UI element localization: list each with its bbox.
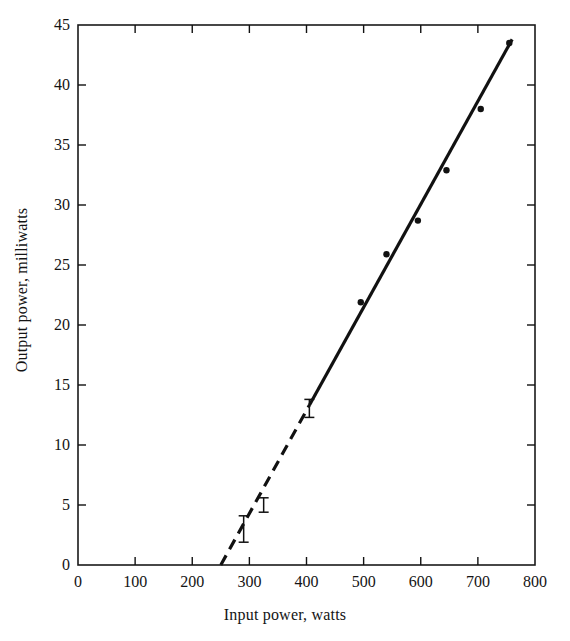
data-point: [358, 299, 364, 305]
y-tick-label: 40: [40, 76, 70, 94]
y-tick-label: 0: [40, 556, 70, 574]
data-point: [383, 251, 389, 257]
y-tick-label: 15: [40, 376, 70, 394]
plot-frame: [78, 25, 535, 565]
y-tick-label: 45: [40, 16, 70, 34]
data-point: [478, 106, 484, 112]
chart-figure: [0, 0, 570, 641]
y-tick-label: 35: [40, 136, 70, 154]
x-tick-label: 200: [180, 573, 204, 591]
x-tick-label: 800: [523, 573, 547, 591]
y-axis-title: Output power, milliwatts: [13, 208, 31, 373]
fit-line-solid: [309, 39, 512, 405]
error-bar: [259, 498, 269, 512]
y-tick-label: 10: [40, 436, 70, 454]
y-axis-title-wrapper: Output power, milliwatts: [0, 0, 44, 580]
data-point: [506, 40, 512, 46]
y-tick-label: 25: [40, 256, 70, 274]
data-point: [443, 167, 449, 173]
fit-line-dashed: [221, 405, 310, 565]
x-tick-label: 300: [237, 573, 261, 591]
x-tick-label: 500: [352, 573, 376, 591]
data-point: [415, 217, 421, 223]
error-bars: [239, 399, 315, 542]
x-tick-label: 100: [123, 573, 147, 591]
y-axis-ticks: [78, 85, 535, 505]
fit-line: [221, 39, 512, 565]
x-tick-label: 0: [74, 573, 82, 591]
x-tick-label: 400: [295, 573, 319, 591]
x-axis-title: Input power, watts: [0, 606, 570, 624]
x-axis-ticks: [135, 25, 478, 565]
x-tick-label: 600: [409, 573, 433, 591]
y-tick-label: 20: [40, 316, 70, 334]
chart-page: 0100200300400500600700800 05101520253035…: [0, 0, 570, 641]
y-tick-label: 5: [40, 496, 70, 514]
x-tick-label: 700: [466, 573, 490, 591]
y-tick-label: 30: [40, 196, 70, 214]
